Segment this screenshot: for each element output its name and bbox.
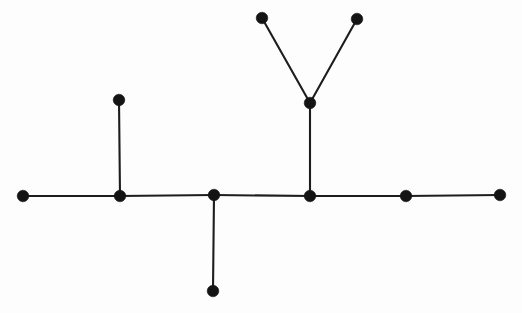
edge-n2-n4	[120, 195, 214, 196]
graph-node-left-endpoint	[17, 190, 29, 202]
edge-n10-n11	[406, 195, 500, 196]
graph-node-middle-junction	[208, 189, 220, 201]
graph-node-right-junction	[304, 190, 316, 202]
edge-n7-n9	[310, 19, 357, 103]
graph-node-right-endpoint	[494, 189, 506, 201]
graph-node-vee-vertex	[304, 97, 316, 109]
graph-node-right-path-node	[400, 190, 412, 202]
graph-node-vee-right-tip	[351, 13, 363, 25]
graph-svg	[0, 0, 522, 313]
edge-n4-n5	[213, 195, 214, 291]
graph-node-vee-left-tip	[256, 12, 268, 24]
edge-layer	[23, 18, 500, 291]
graph-node-lower-branch-tip	[207, 285, 219, 297]
node-layer	[17, 12, 506, 297]
edge-n4-n6	[214, 195, 310, 196]
graph-node-left-junction	[114, 190, 126, 202]
edge-n7-n8	[262, 18, 310, 103]
graph-diagram-canvas	[0, 0, 522, 313]
edge-n2-n3	[119, 100, 120, 196]
graph-node-left-branch-tip	[113, 94, 125, 106]
